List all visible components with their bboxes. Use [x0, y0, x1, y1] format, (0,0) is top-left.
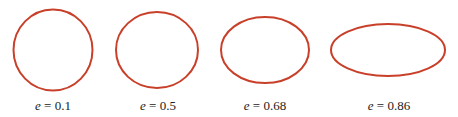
equals-sign: =	[250, 98, 264, 113]
eccentricity-label-0.5: e = 0.5	[140, 99, 176, 113]
eccentricity-value: 0.68	[263, 98, 286, 113]
eccentricity-value: 0.5	[160, 98, 176, 113]
ellipse-e-0.86	[331, 24, 445, 76]
ellipse-e-0.1	[14, 10, 93, 91]
equals-sign: =	[41, 98, 55, 113]
ellipse-e-0.5	[116, 12, 198, 88]
ellipse-e-0.68	[221, 17, 309, 83]
eccentricity-label-0.1: e = 0.1	[35, 99, 71, 113]
eccentricity-label-0.68: e = 0.68	[244, 99, 286, 113]
eccentricity-value: 0.1	[55, 98, 71, 113]
eccentricity-value: 0.86	[387, 98, 410, 113]
equals-sign: =	[374, 98, 388, 113]
equals-sign: =	[146, 98, 160, 113]
eccentricity-label-0.86: e = 0.86	[368, 99, 410, 113]
